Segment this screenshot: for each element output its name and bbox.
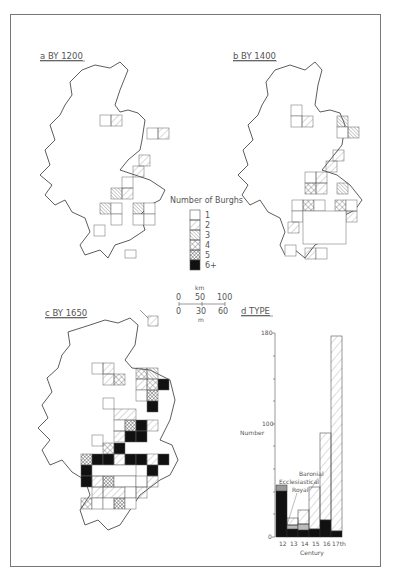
legend-label-3: 3 bbox=[205, 231, 210, 240]
scale-m-label: m bbox=[198, 316, 204, 323]
map-panel-b: b BY 1400 bbox=[233, 51, 362, 259]
scale-km-50: 50 bbox=[195, 293, 205, 302]
panel-a-title: a BY 1200 bbox=[40, 51, 83, 61]
x-axis-label: Century bbox=[300, 549, 324, 557]
y-tick-100: 100 bbox=[262, 420, 274, 427]
x-tick-16: 16 bbox=[323, 540, 331, 547]
legend: Number of Burghs 1 2 3 4 5 6+ bbox=[170, 196, 243, 270]
scale-km-label: km bbox=[195, 284, 204, 291]
chart-panel-d: d TYPE 180 100 0 Number bbox=[240, 306, 346, 557]
scale-km-100: 100 bbox=[217, 293, 232, 302]
map-panel-a: a BY 1200 bbox=[40, 51, 169, 258]
scale-m-30: 30 bbox=[196, 307, 206, 316]
map-panel-c: c BY 1650 bbox=[38, 308, 178, 530]
x-tick-12: 12 bbox=[279, 540, 287, 547]
chart-title: d TYPE bbox=[241, 306, 270, 316]
legend-label-4: 4 bbox=[205, 241, 210, 250]
annotation-baronial: Baronial bbox=[299, 470, 324, 477]
legend-label-6plus: 6+ bbox=[205, 261, 217, 270]
x-tick-14: 14 bbox=[301, 540, 309, 547]
scale-bar: km 0 50 100 0 30 60 m bbox=[176, 284, 232, 323]
y-tick-0: 0 bbox=[268, 533, 272, 540]
scale-km-0: 0 bbox=[176, 293, 181, 302]
y-axis-label: Number bbox=[240, 429, 265, 436]
x-tick-17th: 17th bbox=[332, 540, 346, 547]
legend-label-1: 1 bbox=[205, 211, 210, 220]
y-tick-180: 180 bbox=[261, 329, 273, 336]
x-tick-15: 15 bbox=[312, 540, 320, 547]
legend-label-2: 2 bbox=[205, 221, 210, 230]
annotation-royal: Royal bbox=[292, 486, 309, 494]
scale-m-0: 0 bbox=[176, 307, 181, 316]
panel-b-title: b BY 1400 bbox=[233, 51, 276, 61]
scale-m-60: 60 bbox=[218, 307, 228, 316]
legend-title: Number of Burghs bbox=[170, 196, 243, 205]
annotation-ecclesiastical: Ecclesiastical bbox=[279, 478, 319, 485]
figure-canvas: a BY 1200 b BY 1400 bbox=[0, 0, 394, 585]
x-tick-13: 13 bbox=[290, 540, 298, 547]
panel-c-title: c BY 1650 bbox=[45, 308, 87, 318]
legend-label-5: 5 bbox=[205, 251, 210, 260]
